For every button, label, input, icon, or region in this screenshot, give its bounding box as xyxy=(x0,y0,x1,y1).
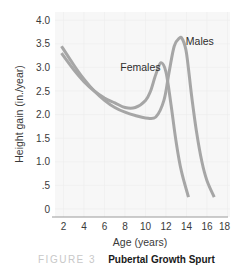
figure-number: FIGURE 3 xyxy=(38,254,96,265)
x-tick-label: 6 xyxy=(102,221,108,232)
y-tick-label: 1.0 xyxy=(36,156,50,167)
y-tick-label: 0 xyxy=(44,204,50,215)
y-tick-label: 2.5 xyxy=(36,86,50,97)
y-tick-label: 4.0 xyxy=(36,15,50,26)
x-axis-ticks: 24681012141618 xyxy=(61,221,231,232)
series-label-males: Males xyxy=(186,35,214,47)
x-tick-label: 10 xyxy=(140,221,152,232)
x-tick-label: 2 xyxy=(61,221,67,232)
x-tick-label: 8 xyxy=(122,221,128,232)
y-axis-label: Height gain (in./year) xyxy=(13,65,25,162)
y-tick-label: .5 xyxy=(42,180,51,191)
y-tick-label: 3.0 xyxy=(36,62,50,73)
series-label-females: Females xyxy=(120,61,160,73)
x-tick-label: 12 xyxy=(160,221,172,232)
x-tick-label: 4 xyxy=(81,221,87,232)
y-tick-label: 1.5 xyxy=(36,133,50,144)
y-tick-label: 3.5 xyxy=(36,38,50,49)
figure-caption: FIGURE 3Pubertal Growth Spurt xyxy=(38,254,215,265)
x-tick-label: 18 xyxy=(219,221,231,232)
figure-title: Pubertal Growth Spurt xyxy=(108,254,215,265)
y-tick-label: 2.0 xyxy=(36,109,50,120)
x-tick-label: 14 xyxy=(181,221,193,232)
x-tick-label: 16 xyxy=(201,221,213,232)
x-axis-label: Age (years) xyxy=(113,236,167,248)
y-axis-ticks: 4.03.53.02.52.01.51.0.50 xyxy=(36,15,50,215)
